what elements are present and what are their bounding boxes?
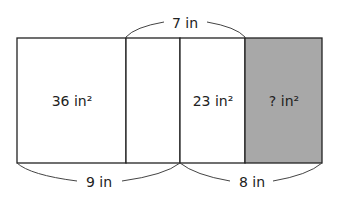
bottom-right-brace-right [273, 163, 322, 181]
bottom-right-brace-label: 8 in [239, 174, 265, 190]
bottom-left-brace-label: 9 in [86, 174, 112, 190]
bottom-left-brace-left [17, 163, 77, 181]
area-diagram: 36 in² 23 in² ? in² 7 in 9 in 8 in [0, 0, 341, 199]
top-brace-right [207, 22, 245, 37]
region-3-label: 23 in² [193, 93, 234, 109]
bottom-right-brace-left [180, 163, 230, 181]
region-4-label: ? in² [269, 93, 299, 109]
region-2 [126, 38, 180, 163]
region-1-label: 36 in² [52, 93, 93, 109]
top-brace-left [126, 22, 164, 37]
top-brace-label: 7 in [172, 15, 198, 31]
bottom-left-brace-right [122, 163, 180, 181]
